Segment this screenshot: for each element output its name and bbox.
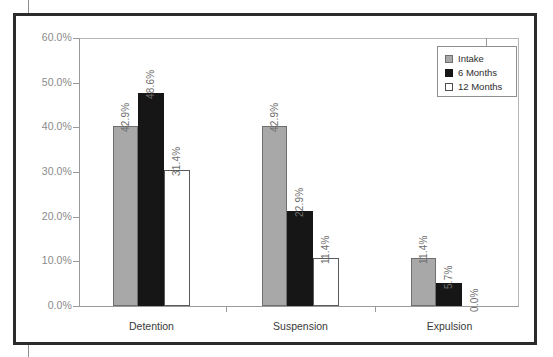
y-axis-tick	[73, 83, 79, 84]
y-axis-tick	[73, 261, 79, 262]
chart-legend: Intake6 Months12 Months	[437, 46, 517, 97]
y-axis-tick-label-text: 60.0%	[10, 31, 72, 43]
y-axis-tick	[73, 306, 79, 307]
chart-page: 0.0%10.0%20.0%30.0%40.0%50.0%60.0% Deten…	[0, 0, 553, 357]
bar-value-label: 22.9%	[294, 188, 305, 217]
legend-swatch-icon	[445, 83, 453, 91]
legend-item: 6 Months	[445, 66, 516, 80]
x-axis-category-label: Detention	[102, 320, 202, 332]
y-axis-tick	[73, 127, 79, 128]
y-axis-tick	[73, 172, 79, 173]
bar	[113, 126, 138, 306]
legend-item: Intake	[445, 52, 516, 66]
bar-value-label: 31.4%	[171, 147, 182, 176]
bar	[138, 93, 164, 306]
frame-tick-bottom	[28, 345, 29, 357]
x-axis-category-label: Suspension	[251, 320, 351, 332]
y-axis-line	[79, 38, 80, 307]
y-axis-tick-label-text: 30.0%	[10, 165, 72, 177]
legend-item-label: Intake	[458, 54, 484, 64]
plot-right-rule	[518, 38, 519, 307]
legend-swatch-icon	[445, 55, 453, 63]
legend-connector-line	[486, 38, 487, 46]
bar-value-label: 0.0%	[469, 288, 480, 312]
x-axis-line	[79, 306, 519, 307]
x-axis-tick	[375, 306, 376, 312]
bar	[287, 211, 313, 306]
bar-value-label: 11.4%	[320, 235, 331, 264]
bar-value-label: 42.9%	[120, 103, 131, 132]
bar-value-label: 11.4%	[418, 235, 429, 264]
x-axis-category-label: Expulsion	[400, 320, 500, 332]
x-axis-tick	[226, 306, 227, 312]
legend-item-label: 6 Months	[458, 68, 497, 78]
y-axis-tick	[73, 217, 79, 218]
frame-tick-top	[28, 0, 29, 14]
bar-value-label: 42.9%	[269, 103, 280, 132]
bar	[262, 126, 287, 306]
bar-value-label: 48.6%	[145, 70, 156, 99]
bar-value-label: 5.7%	[443, 266, 454, 290]
bar	[411, 258, 436, 306]
bar	[313, 258, 339, 306]
y-axis-tick-label-text: 20.0%	[10, 210, 72, 222]
plot-top-rule	[79, 38, 519, 39]
bar	[164, 170, 190, 306]
y-axis-tick-label-text: 50.0%	[10, 76, 72, 88]
y-axis-tick-label-text: 0.0%	[10, 299, 72, 311]
y-axis-tick	[73, 38, 79, 39]
y-axis-tick-label-text: 40.0%	[10, 120, 72, 132]
legend-swatch-icon	[445, 69, 453, 77]
legend-item: 12 Months	[445, 80, 516, 94]
y-axis-tick-label-text: 10.0%	[10, 254, 72, 266]
legend-item-label: 12 Months	[458, 82, 502, 92]
